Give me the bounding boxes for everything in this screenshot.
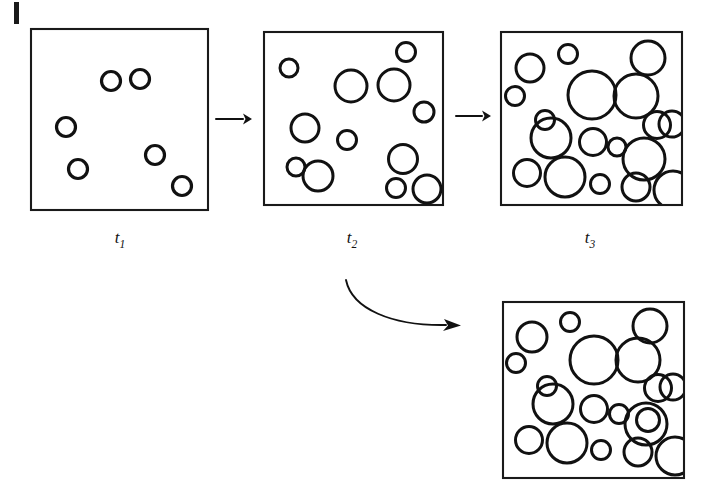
panel-t2: t2: [264, 32, 443, 250]
arrow-t2-alt: [346, 280, 461, 331]
panel-t3: t3: [501, 32, 692, 250]
curved-arrow-shaft: [346, 280, 446, 325]
figure-container: Bubble coarsening sequence t1: [0, 0, 711, 495]
panel-t3-label: t3: [585, 228, 596, 250]
panel-t2-alt: [503, 302, 694, 478]
arrow-t2-t3: [456, 111, 491, 122]
arrow-head-icon: [482, 111, 491, 122]
panel-t1-label: t1: [115, 228, 125, 250]
arrow-head-icon: [243, 114, 252, 125]
panel-t1: t1: [31, 29, 208, 250]
panel-t1-frame: [31, 29, 208, 210]
arrow-t1-t2: [216, 114, 252, 125]
panel-t2-label: t2: [347, 228, 358, 250]
diagram-canvas: t1: [0, 0, 711, 495]
page-edge-tick-mark: [14, 2, 19, 24]
